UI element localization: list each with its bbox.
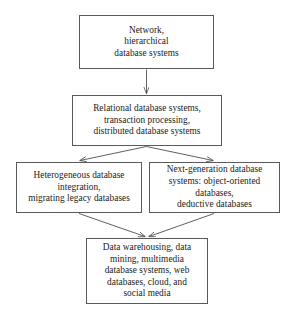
edge-heterogeneous-to-datawarehouse — [79, 214, 145, 237]
edge-relational-to-nextgen — [147, 147, 214, 161]
database-evolution-flowchart: Network, hierarchical database systems R… — [0, 0, 293, 316]
edge-relational-to-heterogeneous — [80, 147, 147, 161]
node-next-generation-database-systems: Next-generation database systems: object… — [149, 162, 280, 213]
edge-nextgen-to-datawarehouse — [149, 214, 214, 237]
node-relational-database-systems: Relational database systems, transaction… — [72, 95, 222, 146]
node-heterogeneous-database-integration: Heterogeneous database integration, migr… — [16, 162, 142, 213]
node-data-warehousing-mining: Data warehousing, data mining, multimedi… — [86, 238, 208, 304]
node-network-hierarchical: Network, hierarchical database systems — [79, 15, 214, 69]
